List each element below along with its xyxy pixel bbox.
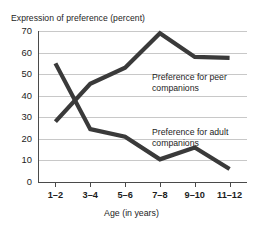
y-tick-label: 40: [6, 91, 32, 100]
annotation-peer-line2: companions: [152, 83, 227, 94]
x-tick: [230, 183, 231, 187]
annotation-adult-line2: companions: [152, 138, 228, 149]
x-axis-title: Age (in years): [0, 208, 263, 218]
y-tick-label: 0: [6, 177, 32, 186]
x-tick: [125, 183, 126, 187]
annotation-adult-line1: Preference for adult: [152, 127, 228, 138]
annotation-peer-line1: Preference for peer: [152, 72, 227, 83]
y-tick-label: 50: [6, 69, 32, 78]
y-tick-label: 70: [6, 26, 32, 35]
x-tick-label: 11–12: [208, 190, 252, 200]
y-tick-label: 60: [6, 48, 32, 57]
annotation-adult-companions: Preference for adult companions: [152, 127, 228, 149]
annotation-peer-companions: Preference for peer companions: [152, 72, 227, 94]
x-tick: [195, 183, 196, 187]
y-tick-label: 10: [6, 155, 32, 164]
x-tick: [55, 183, 56, 187]
x-tick: [160, 183, 161, 187]
x-tick: [90, 183, 91, 187]
y-tick-label: 30: [6, 112, 32, 121]
chart-figure: Expression of preference (percent) Prefe…: [0, 0, 263, 235]
y-tick-label: 20: [6, 134, 32, 143]
